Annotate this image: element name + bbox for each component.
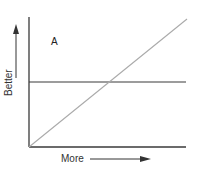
region-label-a: A [51,37,58,47]
diagram-canvas [0,0,203,175]
more-arrow-icon [90,156,151,162]
diagram: A Better More [0,0,203,175]
x-axis-label: More [61,154,84,164]
y-axis-label: Better [4,69,14,96]
